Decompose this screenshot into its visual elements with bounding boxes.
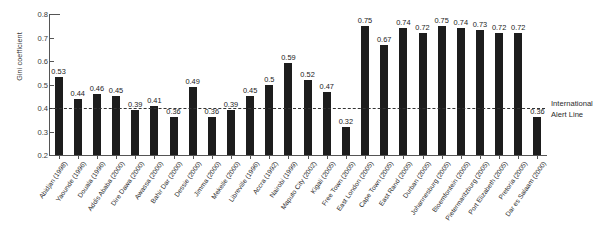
y-tick-label: 0.7 bbox=[24, 33, 48, 42]
bar bbox=[150, 106, 158, 155]
x-tick-mark bbox=[174, 155, 175, 159]
x-tick-mark bbox=[59, 155, 60, 159]
alert-label-line2: Alert Line bbox=[551, 110, 593, 121]
bar-value-label: 0.46 bbox=[90, 84, 104, 93]
bar-value-label: 0.32 bbox=[339, 117, 353, 126]
x-tick-mark bbox=[231, 155, 232, 159]
bar bbox=[533, 117, 541, 155]
x-tick-mark bbox=[135, 155, 136, 159]
y-tick-label: 0.5 bbox=[24, 80, 48, 89]
bar-value-label: 0.72 bbox=[492, 23, 506, 32]
y-tick-label: 0.8 bbox=[24, 10, 48, 19]
bar bbox=[189, 87, 197, 155]
x-tick-mark bbox=[97, 155, 98, 159]
bar-value-label: 0.44 bbox=[71, 89, 85, 98]
bar-value-label: 0.73 bbox=[473, 20, 487, 29]
bar bbox=[323, 92, 331, 155]
bar bbox=[93, 94, 101, 155]
x-tick-mark bbox=[499, 155, 500, 159]
x-tick-mark bbox=[212, 155, 213, 159]
x-tick-mark bbox=[423, 155, 424, 159]
international-alert-line bbox=[49, 108, 545, 109]
bar bbox=[227, 110, 235, 155]
bar bbox=[438, 26, 446, 155]
bar bbox=[457, 28, 465, 155]
x-tick-mark bbox=[250, 155, 251, 159]
bar bbox=[361, 26, 369, 155]
x-tick-mark bbox=[518, 155, 519, 159]
plot-area: 0.530.440.460.450.390.410.360.490.360.39… bbox=[49, 14, 547, 155]
x-tick-mark bbox=[78, 155, 79, 159]
bar bbox=[284, 63, 292, 155]
bar-value-label: 0.75 bbox=[358, 16, 372, 25]
x-tick-mark bbox=[384, 155, 385, 159]
y-tick-label: 0.4 bbox=[24, 104, 48, 113]
bar bbox=[419, 33, 427, 155]
bar-value-label: 0.72 bbox=[415, 23, 429, 32]
bar-value-label: 0.74 bbox=[454, 18, 468, 27]
x-tick-mark bbox=[480, 155, 481, 159]
bar-value-label: 0.47 bbox=[320, 82, 334, 91]
bar bbox=[265, 85, 273, 156]
bar bbox=[399, 28, 407, 155]
gini-coefficient-bar-chart: Gini coefficient 0.80.70.60.50.40.30.2 0… bbox=[0, 0, 601, 227]
bar-value-label: 0.45 bbox=[109, 86, 123, 95]
bar bbox=[342, 127, 350, 155]
x-tick-mark bbox=[116, 155, 117, 159]
bar-value-label: 0.75 bbox=[434, 16, 448, 25]
bar-value-label: 0.41 bbox=[147, 96, 161, 105]
bar bbox=[170, 117, 178, 155]
bar-value-label: 0.67 bbox=[377, 35, 391, 44]
bar-value-label: 0.53 bbox=[51, 67, 65, 76]
bar bbox=[304, 80, 312, 155]
x-tick-mark bbox=[327, 155, 328, 159]
x-axis-line bbox=[49, 155, 547, 156]
y-axis-top-stub bbox=[49, 14, 60, 15]
y-axis-title: Gini coefficient bbox=[15, 2, 24, 112]
y-tick-label: 0.2 bbox=[24, 151, 48, 160]
x-tick-mark bbox=[269, 155, 270, 159]
bar bbox=[246, 96, 254, 155]
bar bbox=[514, 33, 522, 155]
x-tick-mark bbox=[537, 155, 538, 159]
y-tick-mark bbox=[49, 155, 54, 156]
x-tick-mark bbox=[193, 155, 194, 159]
bar-value-label: 0.45 bbox=[243, 86, 257, 95]
x-tick-mark bbox=[403, 155, 404, 159]
bar-value-label: 0.5 bbox=[264, 75, 274, 84]
x-tick-mark bbox=[346, 155, 347, 159]
bar bbox=[495, 33, 503, 155]
x-tick-mark bbox=[154, 155, 155, 159]
bar-value-label: 0.52 bbox=[300, 70, 314, 79]
y-tick-label: 0.6 bbox=[24, 57, 48, 66]
y-tick-label: 0.3 bbox=[24, 127, 48, 136]
bar-value-label: 0.59 bbox=[281, 53, 295, 62]
bar-value-label: 0.72 bbox=[511, 23, 525, 32]
bar bbox=[55, 77, 63, 155]
bar bbox=[131, 110, 139, 155]
international-alert-line-label: International Alert Line bbox=[551, 99, 593, 120]
x-tick-mark bbox=[365, 155, 366, 159]
x-tick-mark bbox=[461, 155, 462, 159]
bar bbox=[380, 45, 388, 155]
x-tick-mark bbox=[442, 155, 443, 159]
x-tick-mark bbox=[308, 155, 309, 159]
bar-value-label: 0.74 bbox=[396, 18, 410, 27]
bar bbox=[208, 117, 216, 155]
x-tick-mark bbox=[288, 155, 289, 159]
bar-value-label: 0.49 bbox=[185, 77, 199, 86]
alert-label-line1: International bbox=[551, 99, 593, 110]
bar bbox=[476, 30, 484, 155]
bar bbox=[112, 96, 120, 155]
